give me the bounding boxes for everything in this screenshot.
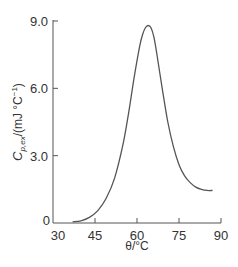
y-axis: 03.06.09.0 — [30, 14, 58, 228]
x-tick-label: 45 — [88, 228, 102, 243]
y-tick-label: 0 — [43, 213, 50, 228]
y-tick-label: 6.0 — [30, 81, 48, 96]
x-tick-label: 75 — [172, 228, 186, 243]
x-tick-label: 90 — [214, 228, 228, 243]
y-tick-label: 9.0 — [30, 14, 48, 29]
data-curve — [73, 25, 213, 221]
y-axis-label: Cp,ex/(mJ °C−1) — [10, 83, 27, 161]
x-axis-label: θ/°C — [125, 239, 149, 253]
y-tick-label: 3.0 — [30, 149, 48, 164]
x-tick-label: 30 — [51, 228, 65, 243]
heat-capacity-chart: 03.06.09.0 3045607590 θ/°C Cp,ex/(mJ °C−… — [0, 0, 238, 267]
